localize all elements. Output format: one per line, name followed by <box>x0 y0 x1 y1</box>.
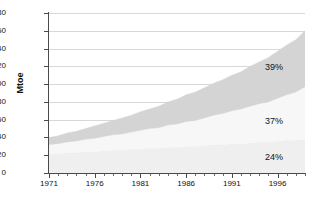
share-label: 24% <box>265 152 283 162</box>
x-tick-minor <box>250 174 251 176</box>
x-tick-minor <box>113 174 114 176</box>
x-tick-minor <box>204 174 205 176</box>
x-tick-minor <box>122 174 123 176</box>
area-series-group <box>49 13 305 173</box>
x-tick-minor <box>296 174 297 176</box>
y-tick-label: 80 <box>0 98 6 106</box>
x-tick-minor <box>67 174 68 176</box>
x-tick-major <box>232 174 233 178</box>
x-tick-minor <box>86 174 87 176</box>
x-tick-major <box>186 174 187 178</box>
x-tick-minor <box>268 174 269 176</box>
x-tick-major <box>49 174 50 178</box>
x-tick-minor <box>76 174 77 176</box>
y-tick-label: 100 <box>0 80 6 88</box>
y-tick-label: 140 <box>0 45 6 53</box>
x-tick-label: 1996 <box>258 180 298 188</box>
x-tick-minor <box>259 174 260 176</box>
y-tick-label: 60 <box>0 116 6 124</box>
x-tick-minor <box>223 174 224 176</box>
stacked-area-chart: Mtoe 020406080100120140160180 1971197619… <box>0 0 319 202</box>
y-tick-label: 160 <box>0 27 6 35</box>
x-tick-minor <box>305 174 306 176</box>
x-tick-label: 1986 <box>166 180 206 188</box>
x-tick-label: 1991 <box>212 180 252 188</box>
x-tick-label: 1981 <box>120 180 160 188</box>
plot-area <box>49 13 305 173</box>
x-tick-minor <box>58 174 59 176</box>
x-tick-minor <box>159 174 160 176</box>
x-tick-minor <box>195 174 196 176</box>
x-tick-minor <box>177 174 178 176</box>
x-tick-major <box>95 174 96 178</box>
x-tick-minor <box>168 174 169 176</box>
y-tick-label: 40 <box>0 133 6 141</box>
share-label: 37% <box>265 116 283 126</box>
x-tick-minor <box>150 174 151 176</box>
x-tick-minor <box>241 174 242 176</box>
y-tick-label: 180 <box>0 9 6 17</box>
x-tick-label: 1976 <box>75 180 115 188</box>
y-axis-title: Mtoe <box>15 53 25 113</box>
y-tick-label: 120 <box>0 62 6 70</box>
y-tick-label: 0 <box>0 169 6 177</box>
y-tick-label: 20 <box>0 151 6 159</box>
x-tick-minor <box>287 174 288 176</box>
x-tick-major <box>140 174 141 178</box>
x-tick-label: 1971 <box>29 180 69 188</box>
x-tick-minor <box>131 174 132 176</box>
x-tick-major <box>278 174 279 178</box>
share-label: 39% <box>265 62 283 72</box>
x-tick-minor <box>104 174 105 176</box>
x-tick-minor <box>214 174 215 176</box>
